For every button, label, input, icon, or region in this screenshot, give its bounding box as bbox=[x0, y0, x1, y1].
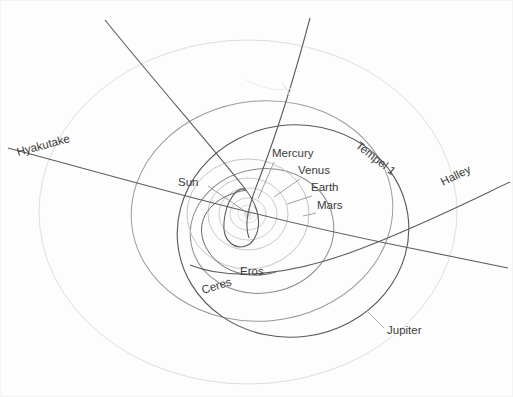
orbit-diagram-panel: Sun Mercury Venus Earth Mars Eros Ceres … bbox=[0, 0, 513, 397]
label-eros: Eros bbox=[240, 265, 264, 277]
label-jupiter: Jupiter bbox=[387, 324, 422, 336]
label-mars: Mars bbox=[317, 199, 343, 211]
label-mercury: Mercury bbox=[272, 147, 314, 159]
label-earth: Earth bbox=[311, 181, 339, 193]
panel-background bbox=[1, 1, 513, 397]
label-venus: Venus bbox=[298, 164, 330, 176]
label-sun: Sun bbox=[178, 176, 198, 188]
orbit-diagram-canvas: Sun Mercury Venus Earth Mars Eros Ceres … bbox=[0, 0, 513, 397]
